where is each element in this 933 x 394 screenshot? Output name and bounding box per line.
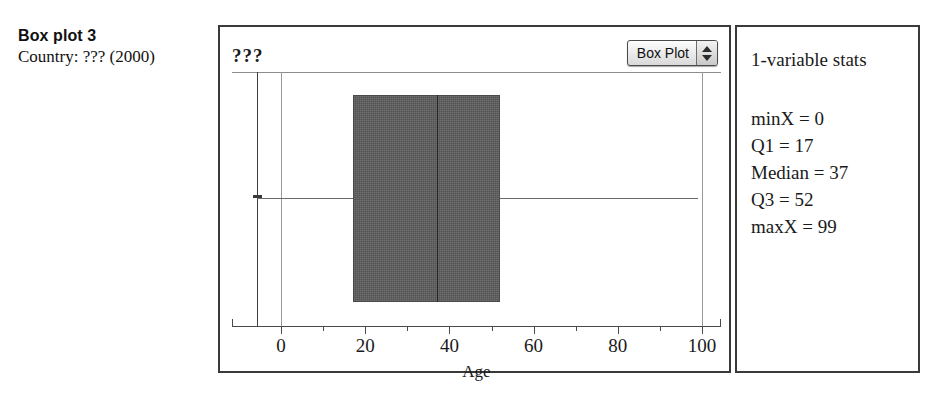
x-tick-minor xyxy=(492,326,493,331)
x-tick-label: 0 xyxy=(276,336,286,355)
stat-row: Median = 37 xyxy=(751,159,848,186)
min-reference-line xyxy=(257,72,258,326)
x-tick-label: 20 xyxy=(356,336,375,355)
arrow-down-icon xyxy=(702,55,712,61)
box-plot-panel: ??? Box Plot 020406080100 Age xyxy=(218,25,731,373)
stat-row: Q1 = 17 xyxy=(751,132,848,159)
x-tick-major xyxy=(702,326,703,334)
x-tick-minor xyxy=(323,326,324,331)
plot-title: ??? xyxy=(232,46,264,65)
x-tick-major xyxy=(618,326,619,334)
x-tick-minor xyxy=(576,326,577,331)
arrow-up-icon xyxy=(702,46,712,52)
stat-row: maxX = 99 xyxy=(751,213,848,240)
x-tick-label: 100 xyxy=(688,336,717,355)
box-iqr-rect[interactable] xyxy=(353,95,500,302)
x-axis-line xyxy=(232,326,721,327)
x-tick-major xyxy=(281,326,282,334)
plot-area xyxy=(232,72,721,326)
stat-row: minX = 0 xyxy=(751,105,848,132)
plot-type-dropdown-label: Box Plot xyxy=(628,41,696,65)
x-tick-minor xyxy=(660,326,661,331)
x-axis-right-cap xyxy=(720,319,721,327)
x-tick-major xyxy=(534,326,535,334)
x-tick-label: 40 xyxy=(440,336,459,355)
x-tick-major xyxy=(449,326,450,334)
stats-list: minX = 0Q1 = 17Median = 37Q3 = 52maxX = … xyxy=(751,105,848,240)
x-axis-left-cap xyxy=(232,319,233,327)
x-tick-label: 60 xyxy=(524,336,543,355)
up-down-arrows-icon[interactable] xyxy=(696,41,717,65)
zero-gridline xyxy=(281,72,282,326)
whisker-cap-min xyxy=(253,195,262,198)
x-axis-title: Age xyxy=(220,363,733,381)
x-tick-minor xyxy=(407,326,408,331)
median-line xyxy=(437,95,438,302)
one-variable-stats-panel: 1-variable stats minX = 0Q1 = 17Median =… xyxy=(735,25,920,373)
figure-caption-title: Box plot 3 xyxy=(18,26,214,46)
figure-caption: Box plot 3 Country: ??? (2000) xyxy=(18,26,214,68)
figure-caption-subtitle: Country: ??? (2000) xyxy=(18,46,214,68)
stats-panel-title: 1-variable stats xyxy=(751,49,867,71)
plot-type-dropdown[interactable]: Box Plot xyxy=(627,40,718,66)
stat-row: Q3 = 52 xyxy=(751,186,848,213)
right-frame-line xyxy=(702,72,703,326)
x-tick-major xyxy=(365,326,366,334)
x-tick-label: 80 xyxy=(608,336,627,355)
